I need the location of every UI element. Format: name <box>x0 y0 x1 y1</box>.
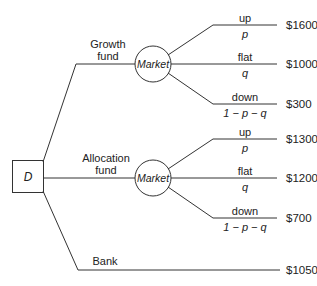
decision-tree-lines <box>0 0 317 286</box>
growth-up-prob: p <box>225 28 265 40</box>
growth-flat-prob: q <box>225 67 265 79</box>
allocation-up-prob: p <box>225 142 265 154</box>
growth-up-state: up <box>225 12 265 24</box>
bank-payoff: $1050 <box>286 264 317 276</box>
allocation-down-prob: 1 − p − q <box>215 221 275 233</box>
growth-down-state: down <box>220 91 270 103</box>
allocation-down-payoff: $700 <box>286 212 312 224</box>
allocation-up-state: up <box>225 126 265 138</box>
bank-label: Bank <box>90 255 120 267</box>
growth-down-prob: 1 − p − q <box>215 107 275 119</box>
growth-up-payoff: $1600 <box>286 19 317 31</box>
allocation-up-payoff: $1300 <box>286 133 317 145</box>
branch-growth-fund <box>43 64 135 162</box>
allocation-fund-label-line1: Allocation <box>78 152 134 164</box>
growth-down-payoff: $300 <box>286 98 312 110</box>
allocation-down-state: down <box>220 205 270 217</box>
allocation-flat-state: flat <box>225 165 265 177</box>
allocation-flat-payoff: $1200 <box>286 172 317 184</box>
allocation-flat-prob: q <box>225 181 265 193</box>
growth-fund-label-line2: fund <box>83 50 133 62</box>
chance-node-growth-label: Market <box>135 58 171 70</box>
growth-flat-payoff: $1000 <box>286 58 317 70</box>
chance-node-allocation-label: Market <box>135 172 171 184</box>
allocation-fund-label-line2: fund <box>78 164 134 176</box>
growth-fund-label-line1: Growth <box>83 38 133 50</box>
decision-node-label: D <box>12 171 44 183</box>
growth-flat-state: flat <box>225 51 265 63</box>
